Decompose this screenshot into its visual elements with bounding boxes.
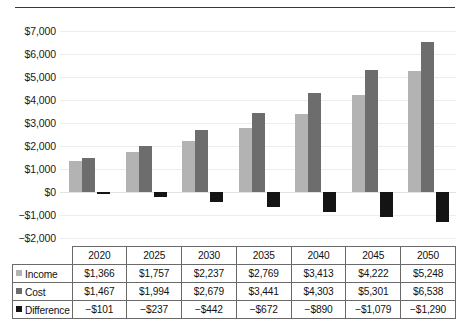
table-cell-income-2020: $1,366 <box>72 265 127 283</box>
table-cell-difference-2040: −$890 <box>291 301 346 319</box>
legend-swatch-icon <box>16 288 22 294</box>
legend-swatch-icon <box>16 270 22 276</box>
bar-difference-2040 <box>323 192 336 212</box>
table-cell-difference-2025: −$237 <box>127 301 182 319</box>
table-header-year-2050: 2050 <box>401 247 456 265</box>
table-cell-cost-2020: $1,467 <box>72 283 127 301</box>
table-header-year-2035: 2035 <box>236 247 291 265</box>
y-axis-tick-label: −$2,000 <box>0 233 56 244</box>
table-cell-cost-2030: $2,679 <box>182 283 237 301</box>
y-axis-tick-label: $1,000 <box>0 164 56 175</box>
y-axis-tick-label: $4,000 <box>0 95 56 106</box>
y-axis-tick-label: $5,000 <box>0 72 56 83</box>
y-axis-tick-label: −$1,000 <box>0 210 56 221</box>
bar-income-2050 <box>408 71 421 192</box>
bar-cost-2050 <box>421 42 434 192</box>
table-row: Cost$1,467$1,994$2,679$3,441$4,303$5,301… <box>13 283 456 301</box>
table-cell-income-2050: $5,248 <box>401 265 456 283</box>
bar-income-2045 <box>352 95 365 192</box>
y-axis-tick-label: $3,000 <box>0 118 56 129</box>
table-cell-cost-2050: $6,538 <box>401 283 456 301</box>
bar-cost-2030 <box>195 130 208 192</box>
bar-income-2030 <box>182 141 195 192</box>
bar-cost-2025 <box>139 146 152 192</box>
gridline <box>60 238 456 239</box>
top-divider-rule <box>15 7 455 8</box>
table-row: Difference−$101−$237−$442−$672−$890−$1,0… <box>13 301 456 319</box>
legend-item-difference: Difference <box>13 301 73 319</box>
y-axis-tick-label: $0 <box>0 187 56 198</box>
table-header-year-2025: 2025 <box>127 247 182 265</box>
table-cell-difference-2020: −$101 <box>72 301 127 319</box>
table-cell-income-2040: $3,413 <box>291 265 346 283</box>
legend-label: Cost <box>25 286 45 297</box>
table-cell-income-2045: $4,222 <box>346 265 401 283</box>
table-cell-cost-2035: $3,441 <box>236 283 291 301</box>
bar-cost-2045 <box>365 70 378 192</box>
bar-group <box>399 31 456 238</box>
bar-group <box>286 31 343 238</box>
bar-group <box>117 31 174 238</box>
bar-income-2025 <box>126 152 139 192</box>
legend-item-cost: Cost <box>13 283 73 301</box>
table-header-year-2020: 2020 <box>72 247 127 265</box>
table-header-year-2045: 2045 <box>346 247 401 265</box>
chart-figure: $7,000$6,000$5,000$4,000$3,000$2,000$1,0… <box>0 0 466 321</box>
y-axis-tick-label: $6,000 <box>0 49 56 60</box>
table-cell-cost-2040: $4,303 <box>291 283 346 301</box>
bar-income-2020 <box>69 161 82 192</box>
data-table: 2020202520302035204020452050 Income$1,36… <box>12 246 456 319</box>
bar-cost-2035 <box>252 113 265 192</box>
table-header-row: 2020202520302035204020452050 <box>13 247 456 265</box>
table-cell-cost-2045: $5,301 <box>346 283 401 301</box>
bar-group <box>173 31 230 238</box>
table-cell-difference-2045: −$1,079 <box>346 301 401 319</box>
bar-income-2035 <box>239 128 252 192</box>
table-corner-cell <box>13 247 73 265</box>
bar-difference-2035 <box>267 192 280 207</box>
legend-swatch-icon <box>16 306 22 312</box>
table-cell-income-2025: $1,757 <box>127 265 182 283</box>
table-cell-difference-2050: −$1,290 <box>401 301 456 319</box>
table-cell-difference-2035: −$672 <box>236 301 291 319</box>
y-axis-tick-label: $7,000 <box>0 26 56 37</box>
y-axis-tick-label: $2,000 <box>0 141 56 152</box>
bar-difference-2045 <box>380 192 393 217</box>
bar-group <box>230 31 287 238</box>
bar-difference-2020 <box>97 192 110 194</box>
table-cell-income-2030: $2,237 <box>182 265 237 283</box>
bar-income-2040 <box>295 114 308 192</box>
table-cell-difference-2030: −$442 <box>182 301 237 319</box>
table-cell-income-2035: $2,769 <box>236 265 291 283</box>
table-head: 2020202520302035204020452050 <box>13 247 456 265</box>
legend-label: Income <box>25 268 58 279</box>
legend-item-income: Income <box>13 265 73 283</box>
table-cell-cost-2025: $1,994 <box>127 283 182 301</box>
y-axis: $7,000$6,000$5,000$4,000$3,000$2,000$1,0… <box>0 31 56 238</box>
bar-difference-2030 <box>210 192 223 202</box>
table-header-year-2040: 2040 <box>291 247 346 265</box>
bar-cost-2040 <box>308 93 321 192</box>
table-row: Income$1,366$1,757$2,237$2,769$3,413$4,2… <box>13 265 456 283</box>
legend-label: Difference <box>25 304 70 315</box>
bar-group <box>60 31 117 238</box>
bar-group <box>343 31 400 238</box>
bar-cost-2020 <box>82 158 95 192</box>
table-body: Income$1,366$1,757$2,237$2,769$3,413$4,2… <box>13 265 456 319</box>
bar-difference-2025 <box>154 192 167 197</box>
bar-difference-2050 <box>436 192 449 222</box>
plot-area <box>60 31 456 238</box>
table-header-year-2030: 2030 <box>182 247 237 265</box>
